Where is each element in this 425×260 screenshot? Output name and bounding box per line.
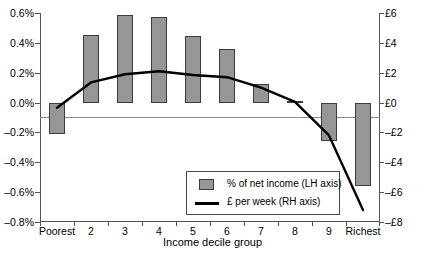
legend-bar-swatch-icon <box>199 179 214 190</box>
right-tick-label: £2 <box>385 68 421 78</box>
right-tick <box>379 103 384 104</box>
right-tick-label: £6 <box>385 8 421 18</box>
chart-legend: % of net income (LH axis) £ per week (RH… <box>186 171 340 215</box>
left-tick-label: –0.4% <box>0 157 34 167</box>
right-tick <box>379 162 384 163</box>
legend-label-line: £ per week (RH axis) <box>227 196 320 208</box>
legend-item-bars: % of net income (LH axis) <box>187 176 341 194</box>
legend-label-bars: % of net income (LH axis) <box>227 178 342 190</box>
right-tick-label: –£6 <box>385 187 421 197</box>
x-axis-title: Income decile group <box>0 236 425 248</box>
right-tick <box>379 73 384 74</box>
legend-item-line: £ per week (RH axis) <box>187 194 341 212</box>
left-tick <box>35 13 40 14</box>
left-tick-label: 0.6% <box>0 8 34 18</box>
left-tick <box>35 43 40 44</box>
left-tick-label: –0.2% <box>0 127 34 137</box>
left-tick <box>35 192 40 193</box>
plot-area: 0.6%0.4%0.2%0.0%–0.2%–0.4%–0.6%–0.8% £6£… <box>40 13 380 222</box>
left-tick <box>35 132 40 133</box>
right-tick <box>379 192 384 193</box>
left-tick-label: –0.6% <box>0 187 34 197</box>
right-tick-label: –£4 <box>385 157 421 167</box>
left-tick-label: 0.2% <box>0 68 34 78</box>
legend-line-glyph-icon <box>195 202 219 205</box>
right-tick <box>379 43 384 44</box>
right-tick-label: £0 <box>385 98 421 108</box>
right-tick-label: £4 <box>385 38 421 48</box>
right-tick <box>379 132 384 133</box>
chart-container: 0.6%0.4%0.2%0.0%–0.2%–0.4%–0.6%–0.8% £6£… <box>0 0 425 260</box>
left-tick-label: 0.4% <box>0 38 34 48</box>
left-tick <box>35 103 40 104</box>
right-tick <box>379 13 384 14</box>
left-tick <box>35 162 40 163</box>
left-tick-label: 0.0% <box>0 98 34 108</box>
left-tick <box>35 73 40 74</box>
right-tick-label: –£2 <box>385 127 421 137</box>
